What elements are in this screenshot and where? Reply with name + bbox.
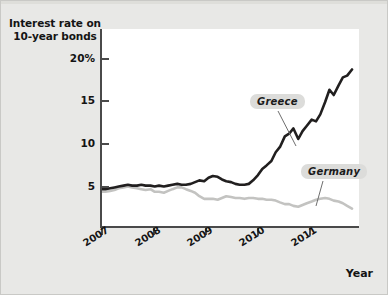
x-axis-line xyxy=(100,226,359,228)
y-axis-title: Interest rate on 10-year bonds xyxy=(9,17,101,43)
y-tick-mark-20 xyxy=(102,58,109,60)
y-tick-mark-5 xyxy=(102,186,109,188)
series-canvas xyxy=(101,29,359,227)
x-tick-label-2007: 2007 xyxy=(81,224,110,248)
chart-figure: Interest rate on 10-year bonds 20% 15 10… xyxy=(0,0,388,295)
y-tick-label-10: 10 xyxy=(35,137,95,149)
y-tick-label-15: 15 xyxy=(35,94,95,106)
series-callout-germany: Germany xyxy=(301,164,367,179)
series-callout-greece: Greece xyxy=(250,94,305,109)
x-axis-title: Year xyxy=(346,267,373,280)
y-axis-title-line1: Interest rate on xyxy=(9,17,101,29)
series-line-germany xyxy=(101,187,352,209)
plot-area xyxy=(101,29,359,227)
y-tick-label-5: 5 xyxy=(35,180,95,192)
y-tick-label-20: 20% xyxy=(35,52,95,64)
y-tick-mark-10 xyxy=(102,143,109,145)
y-tick-mark-15 xyxy=(102,100,109,102)
y-axis-title-line2: 10-year bonds xyxy=(9,30,101,43)
